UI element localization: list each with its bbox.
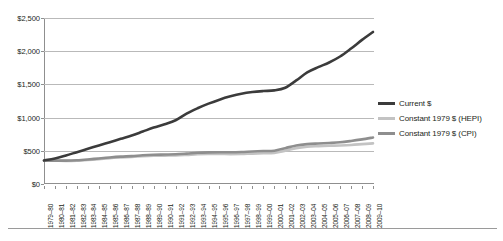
x-tick-mark-0 <box>44 186 45 189</box>
x-tick-mark-25 <box>318 186 319 189</box>
x-tick-label-15: 1994–95 <box>211 204 218 228</box>
x-tick-label-8: 1987–88 <box>134 204 141 228</box>
x-tick-label-19: 1998–99 <box>255 204 262 228</box>
x-tick-mark-13 <box>187 186 188 189</box>
x-tick-label-29: 2008–09 <box>365 204 372 228</box>
x-tick-mark-7 <box>121 186 122 189</box>
x-tick-label-0: 1979–80 <box>47 204 54 228</box>
x-tick-mark-22 <box>285 186 286 189</box>
x-tick-mark-6 <box>110 186 111 189</box>
legend-swatch-constant-hepi <box>378 117 395 120</box>
x-tick-mark-8 <box>132 186 133 189</box>
x-tick-label-1: 1980–81 <box>58 204 65 228</box>
footer-divider <box>8 228 497 229</box>
legend-item-current-dollars: Current $ <box>378 97 503 110</box>
x-tick-label-10: 1989–90 <box>156 204 163 228</box>
legend-item-constant-hepi: Constant 1979 $ (HEPI) <box>378 112 503 125</box>
x-tick-mark-28 <box>351 186 352 189</box>
y-tick-mark-0 <box>41 184 44 185</box>
x-tick-label-23: 2002–03 <box>299 204 306 228</box>
y-tick-label-1500: $1,500 <box>0 80 40 89</box>
x-tick-label-27: 2006–07 <box>343 204 350 228</box>
y-tick-label-0: $0 <box>0 180 40 189</box>
x-tick-mark-20 <box>263 186 264 189</box>
x-tick-mark-17 <box>230 186 231 189</box>
x-tick-label-5: 1984–85 <box>101 204 108 228</box>
x-tick-mark-29 <box>362 186 363 189</box>
x-tick-label-11: 1990–91 <box>167 204 174 228</box>
x-tick-label-3: 1982–83 <box>80 204 87 228</box>
x-tick-mark-3 <box>77 186 78 189</box>
chart-figure: $0$500$1,000$1,500$2,000$2,500 1979–8019… <box>0 0 503 241</box>
x-tick-label-4: 1983–84 <box>90 204 97 228</box>
y-tick-label-500: $500 <box>0 147 40 156</box>
x-tick-mark-11 <box>165 186 166 189</box>
x-tick-label-9: 1988–89 <box>145 204 152 228</box>
x-tick-label-25: 2004–05 <box>321 204 328 228</box>
x-tick-label-21: 2000–01 <box>277 204 284 228</box>
legend-label-current-dollars: Current $ <box>399 99 431 108</box>
x-tick-label-30: 2009–10 <box>376 204 383 228</box>
x-tick-mark-26 <box>329 186 330 189</box>
series-line-current <box>44 32 373 160</box>
x-tick-label-26: 2005–06 <box>332 204 339 228</box>
x-tick-mark-2 <box>66 186 67 189</box>
x-tick-mark-21 <box>274 186 275 189</box>
x-tick-label-6: 1985–86 <box>112 204 119 228</box>
x-tick-mark-19 <box>252 186 253 189</box>
legend-swatch-constant-cpi <box>378 132 395 135</box>
x-tick-mark-12 <box>176 186 177 189</box>
x-tick-mark-18 <box>241 186 242 189</box>
series-line-constant-1979-cpi <box>44 138 373 161</box>
x-tick-mark-10 <box>154 186 155 189</box>
x-tick-label-24: 2003–04 <box>310 204 317 228</box>
x-tick-mark-27 <box>340 186 341 189</box>
x-tick-mark-30 <box>373 186 374 189</box>
x-tick-mark-9 <box>143 186 144 189</box>
x-tick-mark-4 <box>88 186 89 189</box>
x-tick-mark-16 <box>219 186 220 189</box>
x-tick-label-17: 1996–97 <box>233 204 240 228</box>
x-tick-label-18: 1997–98 <box>244 204 251 228</box>
x-tick-mark-24 <box>307 186 308 189</box>
x-tick-mark-15 <box>209 186 210 189</box>
x-tick-mark-14 <box>198 186 199 189</box>
x-tick-label-7: 1986–87 <box>123 204 130 228</box>
x-tick-label-16: 1995–96 <box>222 204 229 228</box>
y-axis-tick-labels: $0$500$1,000$1,500$2,000$2,500 <box>0 18 40 184</box>
x-tick-mark-5 <box>99 186 100 189</box>
x-tick-label-22: 2001–02 <box>288 204 295 228</box>
x-tick-label-12: 1991–92 <box>178 204 185 228</box>
y-tick-label-2000: $2,000 <box>0 47 40 56</box>
x-tick-label-2: 1981–82 <box>69 204 76 228</box>
legend-label-constant-hepi: Constant 1979 $ (HEPI) <box>399 114 482 123</box>
x-tick-mark-23 <box>296 186 297 189</box>
chart-legend: Current $ Constant 1979 $ (HEPI) Constan… <box>378 97 503 142</box>
data-series-layer <box>44 18 374 184</box>
x-tick-label-28: 2007–08 <box>354 204 361 228</box>
y-tick-label-2500: $2,500 <box>0 14 40 23</box>
y-tick-label-1000: $1,000 <box>0 114 40 123</box>
x-tick-label-20: 1999–00 <box>266 204 273 228</box>
x-tick-mark-1 <box>55 186 56 189</box>
legend-swatch-current-dollars <box>378 102 395 105</box>
x-tick-label-14: 1993–94 <box>200 204 207 228</box>
x-tick-label-13: 1992–93 <box>189 204 196 228</box>
legend-label-constant-cpi: Constant 1979 $ (CPI) <box>399 129 477 138</box>
legend-item-constant-cpi: Constant 1979 $ (CPI) <box>378 127 503 140</box>
